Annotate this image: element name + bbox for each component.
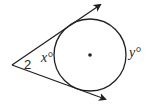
- tangent-circle-diagram: 2 x° y°: [0, 0, 148, 109]
- near-arc-label: x°: [40, 50, 53, 65]
- far-arc-label: y°: [127, 45, 141, 60]
- center-point: [88, 53, 92, 57]
- upper-tangent-ray: [12, 5, 100, 65]
- angle-label: 2: [24, 57, 31, 72]
